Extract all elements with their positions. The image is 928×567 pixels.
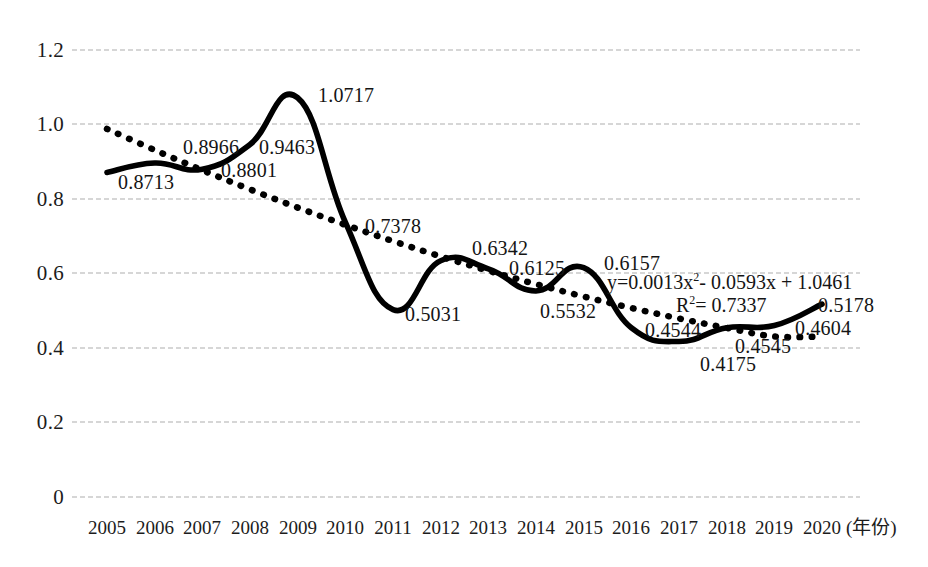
equation-suffix: - 0.0593x + 1.0461 [699,271,852,293]
y-tick-label-1_2: 1.2 [6,40,64,61]
data-label-2018: 0.4545 [735,336,791,356]
y-tick-label-0_8: 0.8 [6,189,64,210]
x-tick-label-2008: 2008 [223,518,277,537]
data-label-2007: 0.8801 [221,160,277,180]
data-label-2014: 0.5532 [540,301,596,321]
x-tick-label-2005: 2005 [80,518,134,537]
data-label-2020: 0.5178 [818,295,874,315]
x-tick-label-2015: 2015 [557,518,611,537]
x-tick-label-2006: 2006 [128,518,182,537]
trendline-equation: y=0.0013x2- 0.0593x + 1.0461 [607,272,852,294]
x-tick-label-2013: 2013 [461,518,515,537]
data-label-2009: 1.0717 [318,85,374,105]
equation-prefix: y=0.0013x [607,271,693,293]
y-tick-label-0: 0 [6,487,64,508]
x-tick-label-2010: 2010 [318,518,372,537]
trendline-r-squared: R2= 0.7337 [676,295,767,315]
x-tick-label-2020: 2020 [795,518,849,537]
data-label-2005: 0.8713 [118,172,174,192]
x-tick-label-2007: 2007 [175,518,229,537]
x-tick-label-2018: 2018 [700,518,754,537]
y-tick-label-0_4: 0.4 [6,338,64,359]
x-tick-label-2019: 2019 [747,518,801,537]
r2-suffix: = 0.7337 [695,294,766,316]
x-tick-label-2012: 2012 [414,518,468,537]
data-label-2008: 0.9463 [259,137,315,157]
y-tick-label-0_6: 0.6 [6,263,64,284]
x-tick-label-2011: 2011 [366,518,420,537]
data-label-2017: 0.4175 [700,354,756,374]
x-tick-label-2014: 2014 [509,518,563,537]
data-label-2015: 0.6157 [604,253,660,273]
x-tick-label-2017: 2017 [652,518,706,537]
y-tick-label-1_0: 1.0 [6,114,64,135]
data-label-2010: 0.7378 [365,216,421,236]
chart-container: 1.2 1.0 0.8 0.6 0.4 0.2 0 2005 2006 2007… [0,0,928,567]
data-label-2013: 0.6125 [509,258,565,278]
r2-prefix: R [676,294,689,316]
x-axis-title: (年份) [846,518,897,537]
data-label-2006: 0.8966 [183,137,239,157]
x-tick-label-2009: 2009 [271,518,325,537]
data-label-2012: 0.6342 [472,238,528,258]
data-label-2016: 0.4544 [645,320,701,340]
y-tick-label-0_2: 0.2 [6,412,64,433]
data-label-2011: 0.5031 [405,304,461,324]
x-tick-label-2016: 2016 [604,518,658,537]
data-label-2019: 0.4604 [795,318,851,338]
